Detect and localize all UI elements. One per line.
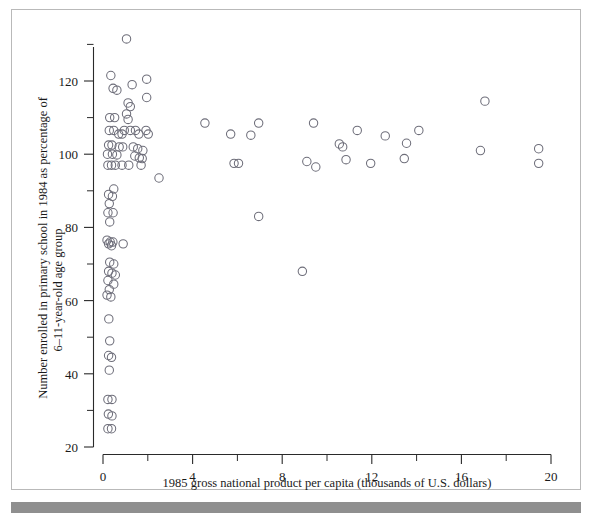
y-tick-label: 40 (65, 367, 78, 382)
y-tick-label: 80 (65, 220, 78, 235)
x-tick-label: 20 (545, 469, 558, 484)
data-point (103, 150, 111, 158)
data-point (476, 146, 484, 154)
data-point (312, 163, 320, 171)
data-point (402, 139, 410, 147)
data-point (122, 35, 130, 43)
data-point (400, 154, 408, 162)
x-axis-title: 1985 gross national product per capita (… (163, 476, 492, 490)
data-point (105, 315, 113, 323)
data-point (122, 110, 130, 118)
y-tick-label: 120 (59, 74, 79, 89)
data-point (226, 130, 234, 138)
data-point (201, 119, 209, 127)
data-point (105, 366, 113, 374)
y-tick-label: 100 (59, 147, 79, 162)
data-point (247, 131, 255, 139)
data-point (142, 93, 150, 101)
data-point (254, 119, 262, 127)
data-point (415, 126, 423, 134)
figure-container: 20406080100120 048121620 1985 gross nati… (0, 0, 594, 523)
data-point (298, 267, 306, 275)
data-point (106, 337, 114, 345)
data-point (366, 159, 374, 167)
y-axis-title-line-2: 6–11-year-old age group (51, 229, 65, 352)
data-point (381, 132, 389, 140)
data-point (106, 218, 114, 226)
data-point (303, 157, 311, 165)
data-point (534, 145, 542, 153)
data-point (142, 75, 150, 83)
data-point (119, 240, 127, 248)
data-point (110, 113, 118, 121)
data-point (155, 174, 163, 182)
x-tick-label: 0 (100, 469, 107, 484)
y-tick-label: 20 (65, 440, 78, 455)
scatter-plot: 20406080100120 048121620 1985 gross nati… (0, 0, 594, 523)
y-axis-title-line-1: Number enrolled in primary school in 198… (36, 96, 50, 398)
data-point (104, 351, 112, 359)
data-point (128, 80, 136, 88)
data-point (309, 119, 317, 127)
data-point (106, 113, 114, 121)
x-axis-minor-ticks (148, 455, 506, 462)
data-point (124, 115, 132, 123)
data-point (107, 71, 115, 79)
data-points (103, 35, 543, 433)
data-point (481, 97, 489, 105)
data-point (534, 159, 542, 167)
data-point (353, 126, 361, 134)
data-point (109, 209, 117, 217)
y-tick-label: 60 (65, 294, 78, 309)
data-point (105, 199, 113, 207)
data-point (254, 212, 262, 220)
data-point (107, 353, 115, 361)
data-point (342, 155, 350, 163)
